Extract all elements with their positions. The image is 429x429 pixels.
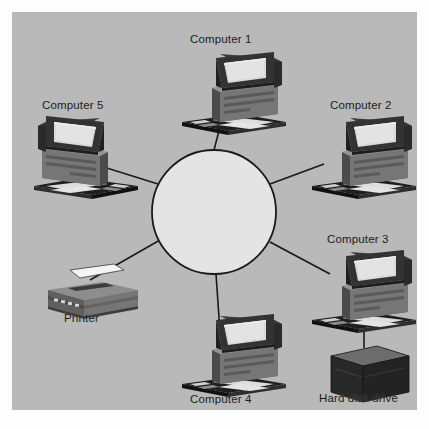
diagram-canvas <box>12 12 417 410</box>
diagram-panel: Computer 1 Computer 2 Computer 3 Compute… <box>12 12 417 410</box>
link-hub-computer-3 <box>270 242 330 274</box>
device-computer-1[interactable] <box>182 52 286 135</box>
label-computer-3: Computer 3 <box>327 234 389 246</box>
network-diagram-root: Computer 1 Computer 2 Computer 3 Compute… <box>0 0 429 429</box>
label-printer: Printer <box>64 313 99 325</box>
label-computer-2: Computer 2 <box>330 100 392 112</box>
link-hub-computer-2 <box>270 164 324 184</box>
label-computer-5: Computer 5 <box>42 100 104 112</box>
device-computer-2[interactable] <box>312 116 416 199</box>
device-computer-4[interactable] <box>182 314 286 397</box>
label-computer-4: Computer 4 <box>190 394 252 406</box>
device-computer-5[interactable] <box>34 116 138 199</box>
central-hub[interactable] <box>152 150 276 274</box>
device-printer[interactable] <box>48 264 138 319</box>
device-computer-3[interactable] <box>312 250 416 333</box>
label-computer-1: Computer 1 <box>190 34 252 46</box>
label-hard-disk-drive: Hard disk drive <box>319 393 398 405</box>
